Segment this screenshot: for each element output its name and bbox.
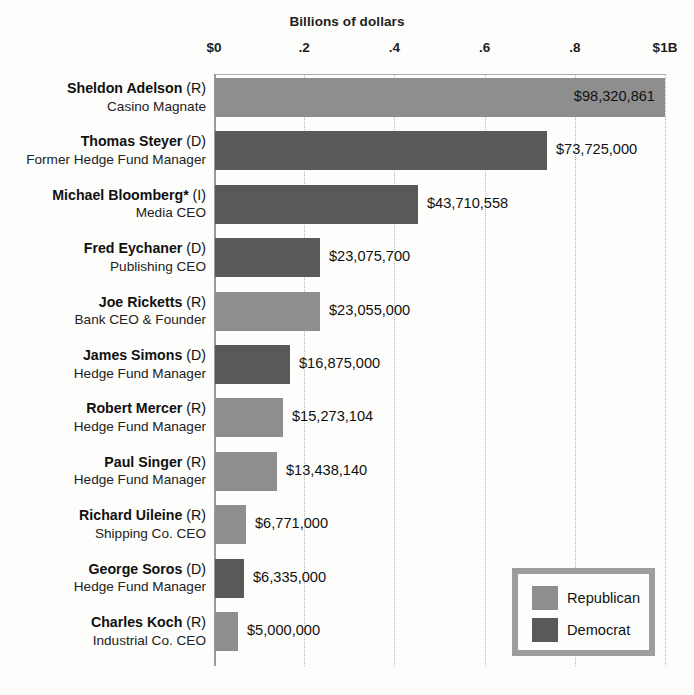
row-label: Michael Bloomberg* (I)Media CEO: [0, 183, 206, 222]
row-label: George Soros (D)Hedge Fund Manager: [0, 557, 206, 596]
row-label: Thomas Steyer (D)Former Hedge Fund Manag…: [0, 129, 206, 168]
donor-occupation: Shipping Co. CEO: [0, 525, 206, 543]
bar-row: Sheldon Adelson (R)Casino Magnate$98,320…: [0, 76, 694, 129]
bar: [215, 345, 290, 384]
bar-row: Joe Ricketts (R)Bank CEO & Founder$23,05…: [0, 290, 694, 343]
legend-label-republican: Republican: [567, 590, 640, 606]
bar-row: James Simons (D)Hedge Fund Manager$16,87…: [0, 343, 694, 396]
donor-occupation: Casino Magnate: [0, 98, 206, 116]
donor-party: (D): [186, 561, 206, 577]
chart-axis-title: Billions of dollars: [0, 14, 694, 29]
donor-name: Joe Ricketts (R): [0, 294, 206, 312]
legend-item-republican: Republican: [532, 586, 640, 610]
chart-legend: Republican Democrat: [512, 568, 655, 656]
legend-swatch-republican: [532, 586, 558, 610]
row-label: Paul Singer (R)Hedge Fund Manager: [0, 450, 206, 489]
bar-row: Thomas Steyer (D)Former Hedge Fund Manag…: [0, 129, 694, 182]
legend-label-democrat: Democrat: [567, 622, 630, 638]
x-axis-tick-4: .8: [569, 40, 580, 55]
donor-occupation: Media CEO: [0, 204, 206, 222]
donor-party: (R): [186, 80, 206, 96]
donor-occupation: Bank CEO & Founder: [0, 311, 206, 329]
bar-row: Robert Mercer (R)Hedge Fund Manager$15,2…: [0, 396, 694, 449]
x-axis-tick-1: .2: [299, 40, 310, 55]
bar: [215, 185, 418, 224]
bar-value-label: $13,438,140: [286, 462, 367, 478]
donor-party: (R): [186, 454, 206, 470]
x-axis-tick-0: $0: [206, 40, 221, 55]
bar-row: Paul Singer (R)Hedge Fund Manager$13,438…: [0, 450, 694, 503]
donor-occupation: Hedge Fund Manager: [0, 578, 206, 596]
bar: [215, 452, 277, 491]
bar: [215, 292, 320, 331]
donor-occupation: Hedge Fund Manager: [0, 471, 206, 489]
legend-item-democrat: Democrat: [532, 618, 630, 642]
donor-name: Richard Uileine (R): [0, 507, 206, 525]
donor-party: (D): [186, 240, 206, 256]
bar: [215, 131, 547, 170]
bar-value-label: $43,710,558: [427, 195, 508, 211]
bar: [215, 612, 238, 651]
donor-party: (R): [186, 614, 206, 630]
x-axis-tick-3: .6: [479, 40, 490, 55]
bar: [215, 505, 246, 544]
bar-value-label: $23,055,000: [329, 302, 410, 318]
row-label: Fred Eychaner (D)Publishing CEO: [0, 236, 206, 275]
donor-party: (R): [186, 294, 206, 310]
bar-value-label: $6,335,000: [253, 569, 326, 585]
donor-occupation: Hedge Fund Manager: [0, 418, 206, 436]
donor-contributions-bar-chart: Billions of dollars $0.2.4.6.8$1B Sheldo…: [0, 0, 694, 695]
donor-occupation: Hedge Fund Manager: [0, 365, 206, 383]
donor-name: James Simons (D): [0, 347, 206, 365]
donor-occupation: Publishing CEO: [0, 258, 206, 276]
donor-name: Robert Mercer (R): [0, 400, 206, 418]
row-label: Richard Uileine (R)Shipping Co. CEO: [0, 503, 206, 542]
x-axis-tick-5: $1B: [653, 40, 678, 55]
row-label: Sheldon Adelson (R)Casino Magnate: [0, 76, 206, 115]
bar-value-label: $16,875,000: [299, 355, 380, 371]
donor-name: Charles Koch (R): [0, 614, 206, 632]
bar-value-label: $98,320,861: [574, 88, 655, 104]
bar-value-label: $73,725,000: [556, 141, 637, 157]
donor-name: George Soros (D): [0, 561, 206, 579]
donor-occupation: Former Hedge Fund Manager: [0, 151, 206, 169]
x-axis-tick-2: .4: [389, 40, 400, 55]
bar-value-label: $5,000,000: [247, 622, 320, 638]
donor-name: Michael Bloomberg* (I): [0, 187, 206, 205]
row-label: Charles Koch (R)Industrial Co. CEO: [0, 610, 206, 649]
bar-row: Michael Bloomberg* (I)Media CEO$43,710,5…: [0, 183, 694, 236]
donor-party: (R): [186, 400, 206, 416]
bar-value-label: $15,273,104: [292, 408, 373, 424]
bar-row: Richard Uileine (R)Shipping Co. CEO$6,77…: [0, 503, 694, 556]
donor-name: Sheldon Adelson (R): [0, 80, 206, 98]
legend-swatch-democrat: [532, 618, 558, 642]
row-label: James Simons (D)Hedge Fund Manager: [0, 343, 206, 382]
row-label: Joe Ricketts (R)Bank CEO & Founder: [0, 290, 206, 329]
bar-row: Fred Eychaner (D)Publishing CEO$23,075,7…: [0, 236, 694, 289]
bar-value-label: $6,771,000: [255, 515, 328, 531]
donor-occupation: Industrial Co. CEO: [0, 632, 206, 650]
bar: [215, 559, 244, 598]
donor-party: (D): [186, 347, 206, 363]
bar-value-label: $23,075,700: [329, 248, 410, 264]
donor-name: Paul Singer (R): [0, 454, 206, 472]
donor-name: Fred Eychaner (D): [0, 240, 206, 258]
donor-party: (I): [193, 187, 206, 203]
bar: [215, 238, 320, 277]
bar: [215, 398, 283, 437]
donor-name: Thomas Steyer (D): [0, 133, 206, 151]
donor-party: (R): [186, 507, 206, 523]
donor-party: (D): [186, 133, 206, 149]
row-label: Robert Mercer (R)Hedge Fund Manager: [0, 396, 206, 435]
